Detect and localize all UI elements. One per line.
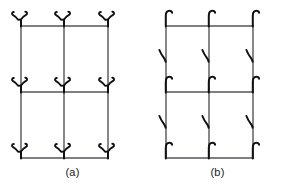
figure-caption-b: (b) <box>145 166 290 179</box>
y-fork-glyph-8 <box>99 144 114 159</box>
hook-glyph-2 <box>253 11 259 27</box>
lattice-midedge-glyphs-b <box>159 50 252 128</box>
back-hook-glyph-0 <box>159 50 165 62</box>
hook-glyph-3 <box>166 77 172 93</box>
back-hook-stroke-0 <box>159 50 165 62</box>
y-fork-arms-4 <box>55 78 70 86</box>
hook-glyph-1 <box>209 11 215 27</box>
y-fork-glyph-4 <box>55 78 70 93</box>
y-fork-arms-5 <box>99 78 114 86</box>
hook-glyph-0 <box>166 11 172 27</box>
y-fork-arms-0 <box>12 12 27 20</box>
hook-stroke-1 <box>209 11 215 27</box>
back-hook-stroke-4 <box>202 116 208 128</box>
hook-stroke-8 <box>253 143 259 159</box>
y-fork-arms-8 <box>99 144 114 152</box>
hook-glyph-5 <box>253 77 259 93</box>
figure-board: (a) (b) <box>0 0 290 193</box>
hook-stroke-7 <box>209 143 215 159</box>
y-fork-glyph-2 <box>99 12 114 27</box>
y-fork-glyph-1 <box>55 12 70 27</box>
figure-a-canvas <box>0 0 145 193</box>
hook-stroke-6 <box>166 143 172 159</box>
back-hook-glyph-2 <box>246 50 252 62</box>
back-hook-stroke-5 <box>246 116 252 128</box>
back-hook-glyph-3 <box>159 116 165 128</box>
back-hook-stroke-1 <box>202 50 208 62</box>
lattice-node-glyphs-a <box>12 12 114 159</box>
figure-panel-a: (a) <box>0 0 145 193</box>
y-fork-arms-2 <box>99 12 114 20</box>
hook-stroke-3 <box>166 77 172 93</box>
y-fork-glyph-6 <box>12 144 27 159</box>
figure-b-canvas <box>145 0 290 193</box>
hook-glyph-7 <box>209 143 215 159</box>
y-fork-glyph-7 <box>55 144 70 159</box>
back-hook-glyph-1 <box>202 50 208 62</box>
y-fork-arms-6 <box>12 144 27 152</box>
hook-stroke-2 <box>253 11 259 27</box>
back-hook-stroke-3 <box>159 116 165 128</box>
back-hook-glyph-4 <box>202 116 208 128</box>
hook-glyph-8 <box>253 143 259 159</box>
y-fork-arms-7 <box>55 144 70 152</box>
figure-panel-b: (b) <box>145 0 290 193</box>
y-fork-glyph-0 <box>12 12 27 27</box>
back-hook-glyph-5 <box>246 116 252 128</box>
hook-stroke-5 <box>253 77 259 93</box>
y-fork-glyph-5 <box>99 78 114 93</box>
y-fork-glyph-3 <box>12 78 27 93</box>
figure-caption-a: (a) <box>0 166 145 179</box>
hook-stroke-4 <box>209 77 215 93</box>
hook-glyph-4 <box>209 77 215 93</box>
back-hook-stroke-2 <box>246 50 252 62</box>
y-fork-arms-1 <box>55 12 70 20</box>
lattice-node-glyphs-b <box>166 11 259 159</box>
hook-stroke-0 <box>166 11 172 27</box>
hook-glyph-6 <box>166 143 172 159</box>
y-fork-arms-3 <box>12 78 27 86</box>
